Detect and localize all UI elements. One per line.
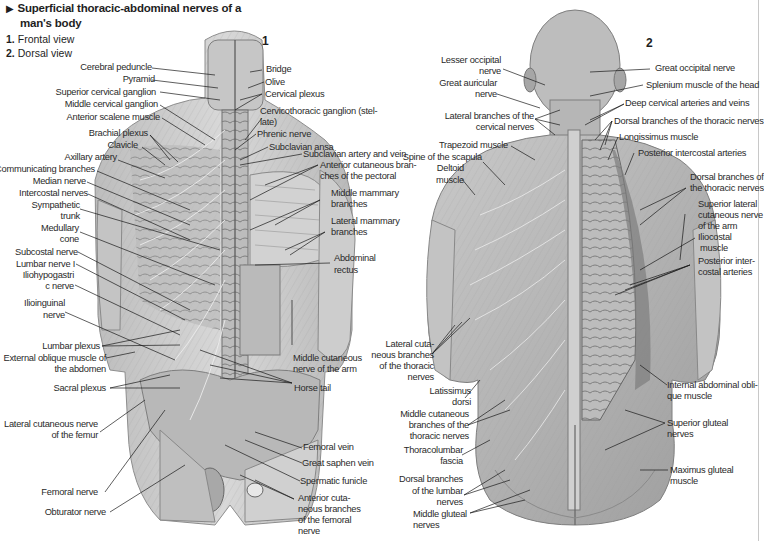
label: Olive — [265, 77, 285, 88]
label: que muscle — [667, 391, 712, 402]
title-line-1: Superficial thoracic-abdominal nerves of… — [18, 2, 242, 14]
label: Lumbar plexus — [42, 341, 100, 352]
label: cervical nerves — [476, 122, 534, 133]
legend-label: Frontal view — [18, 33, 75, 45]
label: trunk — [61, 211, 80, 222]
label: Great occipital nerve — [655, 63, 735, 74]
label: of the arm — [698, 221, 737, 232]
label: Posterior intercostal arteries — [638, 148, 746, 159]
label: Lesser occipital — [441, 55, 501, 66]
label: branches — [331, 199, 367, 210]
label: Dorsal branches of — [690, 172, 764, 183]
label: nerve — [298, 526, 320, 537]
label: Subclavian artery and vein — [303, 149, 406, 160]
label: Medullary — [41, 223, 79, 234]
label: nerve of the arm — [293, 364, 357, 375]
label: Spine of the scapula — [403, 152, 482, 163]
label: Lumbar nerve I — [16, 259, 75, 270]
label: Middle cervical ganglion — [65, 99, 158, 110]
label: of the lumbar — [412, 486, 463, 497]
label: of the femur — [51, 430, 98, 441]
label: Horse tail — [294, 383, 331, 394]
label: Brachial plexus — [89, 128, 148, 139]
label: Femoral nerve — [41, 487, 98, 498]
label: Anterior scalene muscle — [67, 112, 160, 123]
label: Femoral vein — [303, 442, 354, 453]
label: branches — [331, 227, 367, 238]
legend-item-dorsal: 2.Dorsal view — [6, 47, 74, 61]
label: Cervicothoracic ganglion (stel- — [260, 106, 377, 117]
label: Anterior cuta- — [298, 493, 350, 504]
label: Sympathetic — [32, 200, 80, 211]
label: Maximus gluteal — [670, 465, 733, 476]
label: nerves — [413, 520, 439, 531]
label: ches of the pectoral — [320, 171, 396, 182]
label: fascia — [440, 456, 463, 467]
label: Superior gluteal — [667, 418, 728, 429]
label: Sacral plexus — [53, 383, 106, 394]
label: late) — [260, 117, 277, 128]
label: Obturator nerve — [45, 507, 106, 518]
label: muscle — [670, 476, 698, 487]
label: Middle cutaneous — [400, 409, 469, 420]
label: Ilioinguinal — [24, 298, 65, 309]
label: Cervical plexus — [265, 89, 324, 100]
label: Iliohypogastri — [23, 270, 74, 281]
label: Intercostal nerves — [19, 188, 88, 199]
label: dorsi — [452, 397, 471, 408]
label: nerves — [437, 497, 463, 508]
label: nerves — [408, 372, 434, 383]
right-triangle-bullet-icon: ▶ — [6, 3, 14, 14]
label: Cerebral peduncle — [80, 62, 152, 73]
label: Deltoid — [437, 163, 464, 174]
legend-label: Dorsal view — [18, 47, 72, 59]
label: nerve — [479, 66, 501, 77]
label: Latissimus — [430, 386, 471, 397]
label: Deep cervical arteries and veins — [625, 98, 749, 109]
label: of the femoral — [298, 515, 351, 526]
label: Thoracolumbar — [404, 445, 463, 456]
label: External oblique muscle of — [3, 353, 106, 364]
label: Median nerve — [33, 176, 86, 187]
legend-number: 2. — [6, 47, 15, 59]
label: Internal abdominal obli- — [667, 380, 758, 391]
label: Middle mammary — [331, 188, 399, 199]
label: neous branches — [371, 350, 434, 361]
legend-item-frontal: 1.Frontal view — [6, 33, 74, 47]
label: Middle cutaneous — [293, 353, 362, 364]
label: Iliocostal — [698, 232, 732, 243]
label: Bridge — [266, 64, 291, 75]
label: Phrenic nerve — [257, 129, 311, 140]
label: Clavicle — [107, 140, 138, 151]
view-legend: 1.Frontal view 2.Dorsal view — [6, 33, 74, 60]
label: Splenium muscle of the head — [646, 80, 759, 91]
legend-number: 1. — [6, 33, 15, 45]
label: rectus — [334, 265, 358, 276]
label: Posterior inter- — [698, 256, 755, 267]
label: muscle — [436, 175, 464, 186]
label: Trapezoid muscle — [439, 140, 508, 151]
label: Dorsal branches — [399, 474, 463, 485]
label: Lateral mammary — [331, 216, 400, 227]
label: Superior lateral — [698, 199, 757, 210]
label: Subcostal nerve — [15, 247, 78, 258]
title-line-2: man's body — [6, 16, 326, 31]
label: Longissimus muscle — [619, 132, 698, 143]
label: nerve — [475, 89, 497, 100]
label: neous branches — [298, 504, 361, 515]
label: the thoracic nerves — [690, 183, 764, 194]
label: costal arteries — [698, 267, 752, 278]
label: muscle — [700, 243, 728, 254]
label: Abdominal — [334, 253, 376, 264]
figure-number-1: 1 — [262, 34, 269, 48]
label: Spermatic funicle — [300, 476, 367, 487]
label: Pyramid — [123, 74, 155, 85]
page-title: ▶Superficial thoracic-abdominal nerves o… — [6, 1, 326, 31]
label: c nerve — [45, 281, 74, 292]
figure-number-2: 2 — [646, 36, 653, 50]
label: cutaneous nerve — [698, 210, 763, 221]
label: Great auricular — [439, 78, 497, 89]
label: Lateral branches of the — [445, 111, 534, 122]
label: branches of the — [409, 420, 469, 431]
